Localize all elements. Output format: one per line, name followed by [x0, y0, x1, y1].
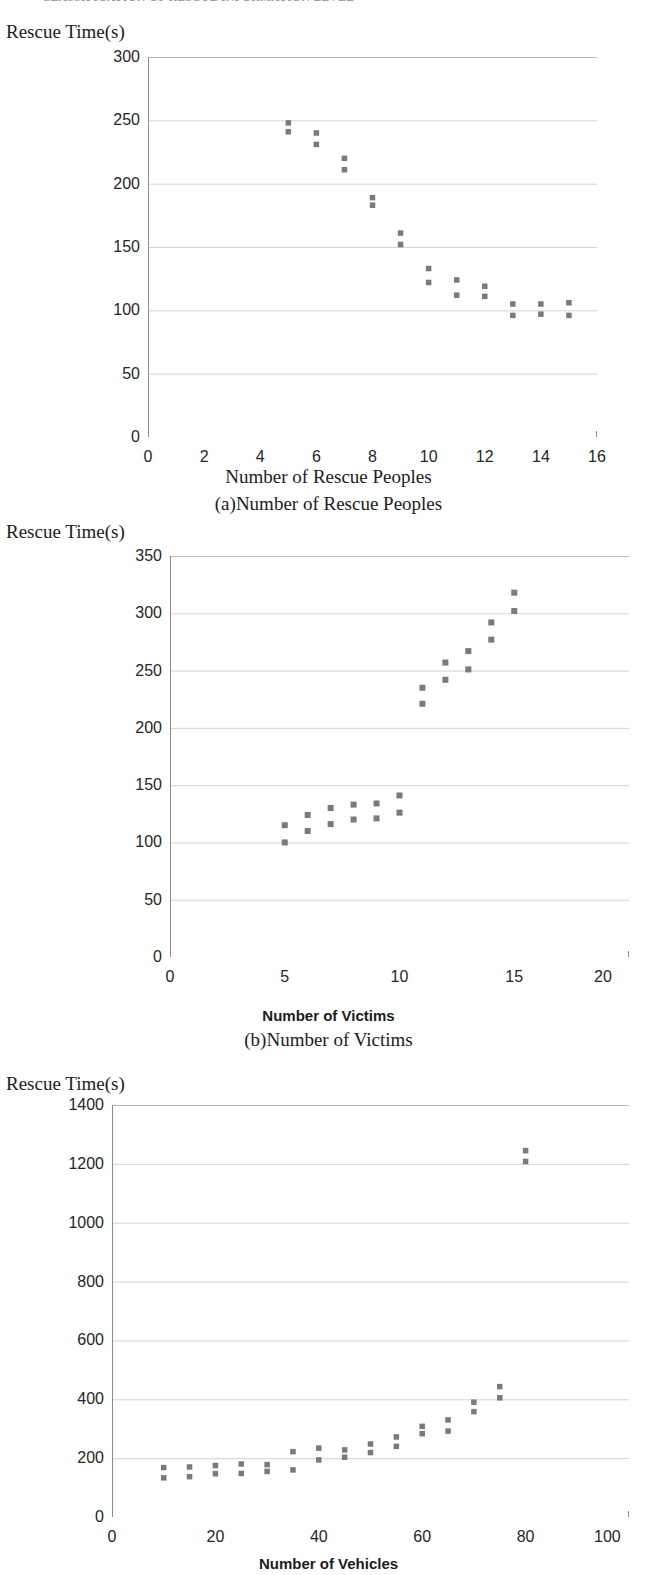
scatter-point [286, 129, 292, 135]
x-tick-label: 0 [166, 969, 175, 985]
scatter-point [394, 1444, 400, 1450]
x-tick-label: 20 [206, 1529, 224, 1545]
x-tick-label: 5 [280, 969, 289, 985]
y-tick-label: 50 [144, 892, 162, 908]
scatter-series [282, 590, 518, 846]
y-tick-label: 100 [113, 302, 140, 318]
scatter-point [511, 608, 517, 614]
figure-a-x-axis-title: Number of Rescue Peoples [0, 466, 657, 488]
scatter-point [316, 1445, 322, 1451]
scatter-point [454, 277, 460, 283]
y-tick-label: 600 [77, 1332, 104, 1348]
scatter-point [374, 815, 380, 821]
y-tick-label: 0 [153, 949, 162, 965]
scatter-point [523, 1159, 529, 1165]
scatter-point [351, 817, 357, 823]
scatter-point [213, 1471, 219, 1477]
scatter-point [316, 1457, 322, 1463]
scatter-point [454, 292, 460, 298]
y-tick-label: 300 [113, 49, 140, 65]
y-tick-label: 200 [135, 720, 162, 736]
y-tick-label: 250 [113, 112, 140, 128]
scatter-point [305, 828, 311, 834]
scatter-point [370, 202, 376, 208]
scatter-point [328, 821, 334, 827]
x-tick-label: 15 [505, 969, 523, 985]
scatter-point [370, 195, 376, 201]
scatter-point [290, 1449, 296, 1455]
figure-b-caption: (b)Number of Victims [0, 1029, 657, 1051]
scatter-point [374, 800, 380, 806]
figure-b-plot-area [170, 556, 629, 957]
y-tick-label: 200 [77, 1450, 104, 1466]
scatter-point [445, 1417, 451, 1423]
figure-a-plot-area [148, 57, 597, 437]
x-tick-label: 10 [420, 449, 438, 465]
figure-c-y-axis-title: Rescue Time(s) [6, 1074, 125, 1093]
scatter-point [342, 1455, 348, 1461]
x-tick-label: 10 [391, 969, 409, 985]
x-tick-label: 0 [144, 449, 153, 465]
x-tick-label: 40 [310, 1529, 328, 1545]
x-tick-label: 6 [312, 449, 321, 465]
scatter-point [445, 1428, 451, 1434]
scatter-point [342, 167, 348, 173]
scatter-point [538, 301, 544, 307]
scatter-point [442, 677, 448, 683]
scatter-point [282, 822, 288, 828]
x-tick-label: 0 [108, 1529, 117, 1545]
scatter-point [161, 1475, 167, 1481]
scatter-point [394, 1434, 400, 1440]
scatter-point [239, 1471, 245, 1477]
scatter-point [328, 805, 334, 811]
y-tick-label: 0 [131, 429, 140, 445]
scatter-point [465, 666, 471, 672]
figure-b-x-axis-title: Number of Victims [0, 1007, 657, 1024]
scatter-point [566, 300, 572, 306]
scatter-point [510, 301, 516, 307]
y-tick-label: 250 [135, 663, 162, 679]
figure-page: CLASSIFICATION OF RESCUE INFORMATION LEV… [0, 0, 657, 1575]
x-tick-label: 8 [368, 449, 377, 465]
y-tick-label: 50 [122, 366, 140, 382]
x-tick-label: 12 [476, 449, 494, 465]
x-tick-label: 100 [594, 1529, 636, 1545]
scatter-point [187, 1464, 193, 1470]
scatter-point [398, 230, 404, 236]
y-tick-label: 150 [113, 239, 140, 255]
y-tick-label: 150 [135, 777, 162, 793]
x-tick-label: 2 [200, 449, 209, 465]
scatter-point [342, 1447, 348, 1453]
scatter-point [419, 1431, 425, 1437]
scatter-point [426, 280, 432, 286]
x-tick-label: 20 [594, 969, 636, 985]
scatter-point [368, 1450, 374, 1456]
scatter-point [314, 130, 320, 136]
running-header: CLASSIFICATION OF RESCUE INFORMATION LEV… [42, 0, 562, 3]
scatter-point [497, 1395, 503, 1401]
scatter-point [282, 839, 288, 845]
scatter-point [398, 242, 404, 248]
scatter-series [161, 1148, 528, 1481]
x-tick-label: 60 [413, 1529, 431, 1545]
x-tick-label: 4 [256, 449, 265, 465]
scatter-point [286, 120, 292, 126]
y-tick-label: 100 [135, 834, 162, 850]
x-tick-label: 14 [532, 449, 550, 465]
scatter-point [239, 1461, 245, 1467]
y-tick-label: 200 [113, 176, 140, 192]
y-tick-label: 800 [77, 1274, 104, 1290]
scatter-point [305, 812, 311, 818]
scatter-point [471, 1409, 477, 1415]
scatter-point [426, 266, 432, 272]
scatter-point [187, 1474, 193, 1480]
scatter-point [510, 313, 516, 319]
scatter-point [488, 637, 494, 643]
scatter-point [419, 701, 425, 707]
figure-a-y-axis-title: Rescue Time(s) [6, 22, 125, 41]
y-tick-label: 350 [135, 548, 162, 564]
scatter-point [482, 294, 488, 300]
y-tick-label: 1400 [68, 1097, 104, 1113]
scatter-point [566, 313, 572, 319]
scatter-point [161, 1465, 167, 1471]
